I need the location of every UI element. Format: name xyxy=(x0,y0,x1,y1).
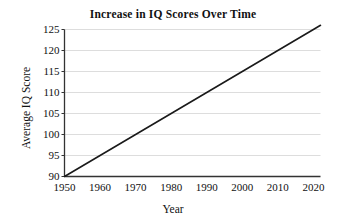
y-tick-label-110: 110 xyxy=(34,87,60,98)
y-tick-label-115: 115 xyxy=(34,66,60,77)
x-tick-label-2020: 2020 xyxy=(293,182,333,193)
x-axis-label: Year xyxy=(0,203,346,215)
x-tick-label-1980: 1980 xyxy=(151,182,191,193)
chart-container: Increase in IQ Scores Over Time 90951001… xyxy=(0,0,346,224)
y-axis-label: Average IQ Score xyxy=(20,48,32,168)
x-tick-label-1960: 1960 xyxy=(80,182,120,193)
data-series-group xyxy=(65,25,321,176)
x-tick-label-2000: 2000 xyxy=(222,182,262,193)
x-tick-label-1990: 1990 xyxy=(187,182,227,193)
y-tick-label-95: 95 xyxy=(34,150,60,161)
y-tick-label-125: 125 xyxy=(34,24,60,35)
y-tick-label-100: 100 xyxy=(34,129,60,140)
x-tick-label-1950: 1950 xyxy=(45,182,85,193)
data-line-0 xyxy=(65,25,321,176)
y-tick-label-90: 90 xyxy=(34,171,60,182)
y-tick-label-105: 105 xyxy=(34,108,60,119)
y-tick-label-120: 120 xyxy=(34,45,60,56)
x-tick-label-2010: 2010 xyxy=(258,182,298,193)
x-tick-label-1970: 1970 xyxy=(116,182,156,193)
